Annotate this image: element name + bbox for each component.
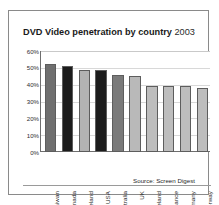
chart-screenshot: DVD Video penetration by country 2003 60… [0, 0, 219, 205]
bar [129, 76, 140, 152]
x-tick-label-wrap: Iceland [84, 155, 94, 193]
bar [197, 88, 208, 152]
y-tick-label: 30% [19, 98, 39, 105]
x-tick-label: Germany [189, 191, 196, 205]
y-tick-label: 20% [19, 115, 39, 122]
chart-title: DVD Video penetration by country 2003 [23, 27, 213, 41]
x-tick-label-wrap: Taiwan [50, 155, 60, 193]
source-divider [23, 185, 211, 186]
x-tick-label: Taiwan [53, 191, 60, 205]
bar [163, 86, 174, 152]
y-axis-tick-labels: 60%50%40%30%20%10%0% [19, 47, 39, 157]
x-tick-label-wrap: Norway [203, 155, 213, 193]
bar [62, 66, 73, 152]
x-tick-label-wrap: Ireland [152, 155, 162, 193]
bar [95, 70, 106, 152]
x-tick-label-wrap: Canada [67, 155, 77, 193]
bar [45, 64, 56, 152]
y-tick-label: 10% [19, 132, 39, 139]
y-tick-label: 0% [19, 149, 39, 156]
x-tick-label-wrap: France [169, 155, 179, 193]
chart-frame: DVD Video penetration by country 2003 60… [8, 10, 209, 195]
x-tick-label: UK [138, 191, 145, 200]
x-tick-label-wrap: USA [101, 155, 111, 193]
y-tick-label: 40% [19, 81, 39, 88]
x-tick-label: France [172, 191, 179, 205]
y-tick-label: 60% [19, 48, 39, 55]
x-tick-label: Norway [206, 191, 213, 205]
bar [112, 75, 123, 152]
x-tick-label: Ireland [155, 191, 162, 205]
x-tick-label: Canada [70, 191, 77, 205]
x-tick-label-wrap: Germany [186, 155, 196, 193]
x-tick-label: Iceland [87, 191, 94, 205]
x-tick-label: Australia [121, 191, 128, 205]
source-note: Source: Screen Digest [133, 177, 195, 184]
x-tick-label-wrap: Australia [118, 155, 128, 193]
chart-title-year: 2003 [174, 27, 194, 37]
x-axis-tick-labels: TaiwanCanadaIcelandUSAAustraliaUKIreland… [41, 153, 210, 193]
x-tick-label: USA [104, 191, 111, 204]
x-tick-label-wrap: UK [135, 155, 145, 193]
y-tick-label: 50% [19, 64, 39, 71]
bar-series [41, 51, 210, 152]
chart-title-main: DVD Video penetration by country [23, 27, 172, 37]
bar [146, 86, 157, 152]
bar [180, 86, 191, 152]
bar [79, 70, 90, 152]
